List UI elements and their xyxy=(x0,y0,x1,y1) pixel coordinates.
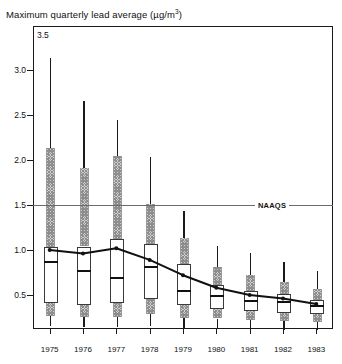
x-axis-tick xyxy=(116,329,117,334)
whisker-lower xyxy=(117,317,118,328)
whisker-upper xyxy=(283,262,284,282)
median-line xyxy=(310,305,324,307)
whisker-upper xyxy=(83,101,84,169)
whisker-lower xyxy=(183,318,184,329)
y-axis-tick xyxy=(27,160,34,161)
x-axis-label: 1978 xyxy=(141,345,159,354)
x-axis-label: 1981 xyxy=(241,345,259,354)
x-axis-tick xyxy=(216,329,217,334)
naaqs-label: NAAQS xyxy=(255,201,289,210)
hatched-band-upper xyxy=(246,275,255,290)
median-line xyxy=(210,295,224,297)
median-line xyxy=(144,266,158,268)
hatched-band-upper xyxy=(313,289,322,300)
whisker-upper xyxy=(117,120,118,156)
median-line xyxy=(77,270,91,272)
chart-title-main: Maximum quarterly lead average (µg/m xyxy=(6,9,175,20)
hatched-band-upper xyxy=(46,148,55,247)
whisker-lower xyxy=(83,317,84,327)
hatched-band-lower xyxy=(80,305,89,317)
box-iqr xyxy=(110,239,124,303)
y-axis-label: 2.0 xyxy=(14,155,26,165)
x-axis-tick xyxy=(183,329,184,334)
y-axis-label: 3.5 xyxy=(37,30,49,40)
hatched-band-upper xyxy=(213,267,222,285)
x-axis-label: 1979 xyxy=(174,345,192,354)
y-axis-tick xyxy=(27,115,34,116)
hatched-band-lower xyxy=(146,299,155,314)
hatched-band-lower xyxy=(280,313,289,321)
chart-title: Maximum quarterly lead average (µg/m3) xyxy=(6,8,182,20)
box-iqr xyxy=(277,294,291,313)
plot-area xyxy=(33,26,333,329)
whisker-lower xyxy=(217,319,218,329)
x-axis-tick xyxy=(283,329,284,334)
x-axis-tick xyxy=(250,329,251,334)
whisker-lower xyxy=(150,314,151,326)
chart-root: Maximum quarterly lead average (µg/m3) 3… xyxy=(0,0,342,364)
whisker-upper xyxy=(250,253,251,276)
y-axis-label: 0.5 xyxy=(14,290,26,300)
x-axis-tick xyxy=(150,329,151,334)
y-axis-label: 1.5 xyxy=(14,200,26,210)
box-iqr xyxy=(177,264,191,305)
hatched-band-lower xyxy=(180,305,189,318)
y-axis-label: 3.0 xyxy=(14,65,26,75)
y-axis-tick xyxy=(27,70,34,71)
median-line xyxy=(44,261,58,263)
whisker-upper xyxy=(50,58,51,148)
x-axis-label: 1982 xyxy=(274,345,292,354)
hatched-band-lower xyxy=(46,303,55,316)
hatched-band-upper xyxy=(113,156,122,240)
hatched-band-upper xyxy=(80,168,89,246)
x-axis-tick xyxy=(50,329,51,334)
whisker-upper xyxy=(150,157,151,205)
x-axis-label: 1983 xyxy=(307,345,325,354)
y-axis-label: 1.0 xyxy=(14,245,26,255)
x-axis-label: 1980 xyxy=(207,345,225,354)
hatched-band-upper xyxy=(280,282,289,295)
hatched-band-lower xyxy=(246,311,255,320)
whisker-lower xyxy=(250,320,251,329)
x-axis-label: 1977 xyxy=(107,345,125,354)
median-line xyxy=(110,277,124,279)
hatched-band-lower xyxy=(313,314,322,322)
y-axis-tick xyxy=(27,250,34,251)
whisker-upper xyxy=(217,246,218,268)
plot-inner xyxy=(34,27,332,328)
box-iqr xyxy=(77,247,91,306)
box-iqr xyxy=(144,244,158,299)
x-axis-tick xyxy=(316,329,317,334)
hatched-band-upper xyxy=(146,204,155,244)
whisker-upper xyxy=(317,271,318,289)
x-axis-tick xyxy=(83,329,84,334)
chart-title-tail: ) xyxy=(179,9,182,20)
box-iqr xyxy=(44,247,58,304)
x-axis-label: 1975 xyxy=(41,345,59,354)
whisker-lower xyxy=(50,316,51,326)
y-axis-tick xyxy=(27,295,34,296)
hatched-band-lower xyxy=(113,303,122,317)
x-axis-label: 1976 xyxy=(74,345,92,354)
hatched-band-lower xyxy=(213,309,222,319)
y-axis-label: 2.5 xyxy=(14,110,26,120)
median-line xyxy=(177,290,191,292)
hatched-band-upper xyxy=(180,238,189,263)
whisker-upper xyxy=(183,211,184,239)
median-line xyxy=(244,300,258,302)
median-line xyxy=(277,301,291,303)
